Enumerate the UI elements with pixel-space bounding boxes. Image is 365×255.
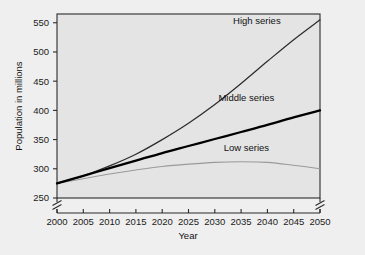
y-axis-title: Population in millions: [13, 61, 24, 150]
y-tick-label: 500: [33, 46, 49, 57]
y-tick-label: 250: [33, 192, 49, 203]
population-projection-chart: 250300350400450500550 200020052010201520…: [0, 0, 365, 255]
series-label-middle: Middle series: [218, 92, 274, 103]
series-label-high: High series: [233, 15, 281, 26]
chart-container: 250300350400450500550 200020052010201520…: [0, 0, 365, 255]
x-axis: 2000200520102015202020252030203520402045…: [46, 209, 330, 227]
y-tick-label: 450: [33, 76, 49, 87]
x-tick-label: 2050: [309, 216, 330, 227]
y-axis: 250300350400450500550: [33, 17, 57, 203]
y-tick-label: 350: [33, 134, 49, 145]
y-tick-label: 400: [33, 105, 49, 116]
x-tick-label: 2040: [257, 216, 278, 227]
x-tick-label: 2025: [178, 216, 199, 227]
y-tick-label: 550: [33, 17, 49, 28]
plot-area-background: [57, 14, 320, 198]
x-tick-label: 2030: [204, 216, 225, 227]
x-axis-title: Year: [178, 230, 197, 241]
x-tick-label: 2035: [231, 216, 252, 227]
x-tick-label: 2020: [152, 216, 173, 227]
x-tick-label: 2000: [46, 216, 67, 227]
x-tick-label: 2010: [99, 216, 120, 227]
x-tick-label: 2045: [283, 216, 304, 227]
x-tick-label: 2015: [125, 216, 146, 227]
series-label-low: Low series: [224, 142, 270, 153]
y-tick-label: 300: [33, 163, 49, 174]
x-tick-label: 2005: [73, 216, 94, 227]
